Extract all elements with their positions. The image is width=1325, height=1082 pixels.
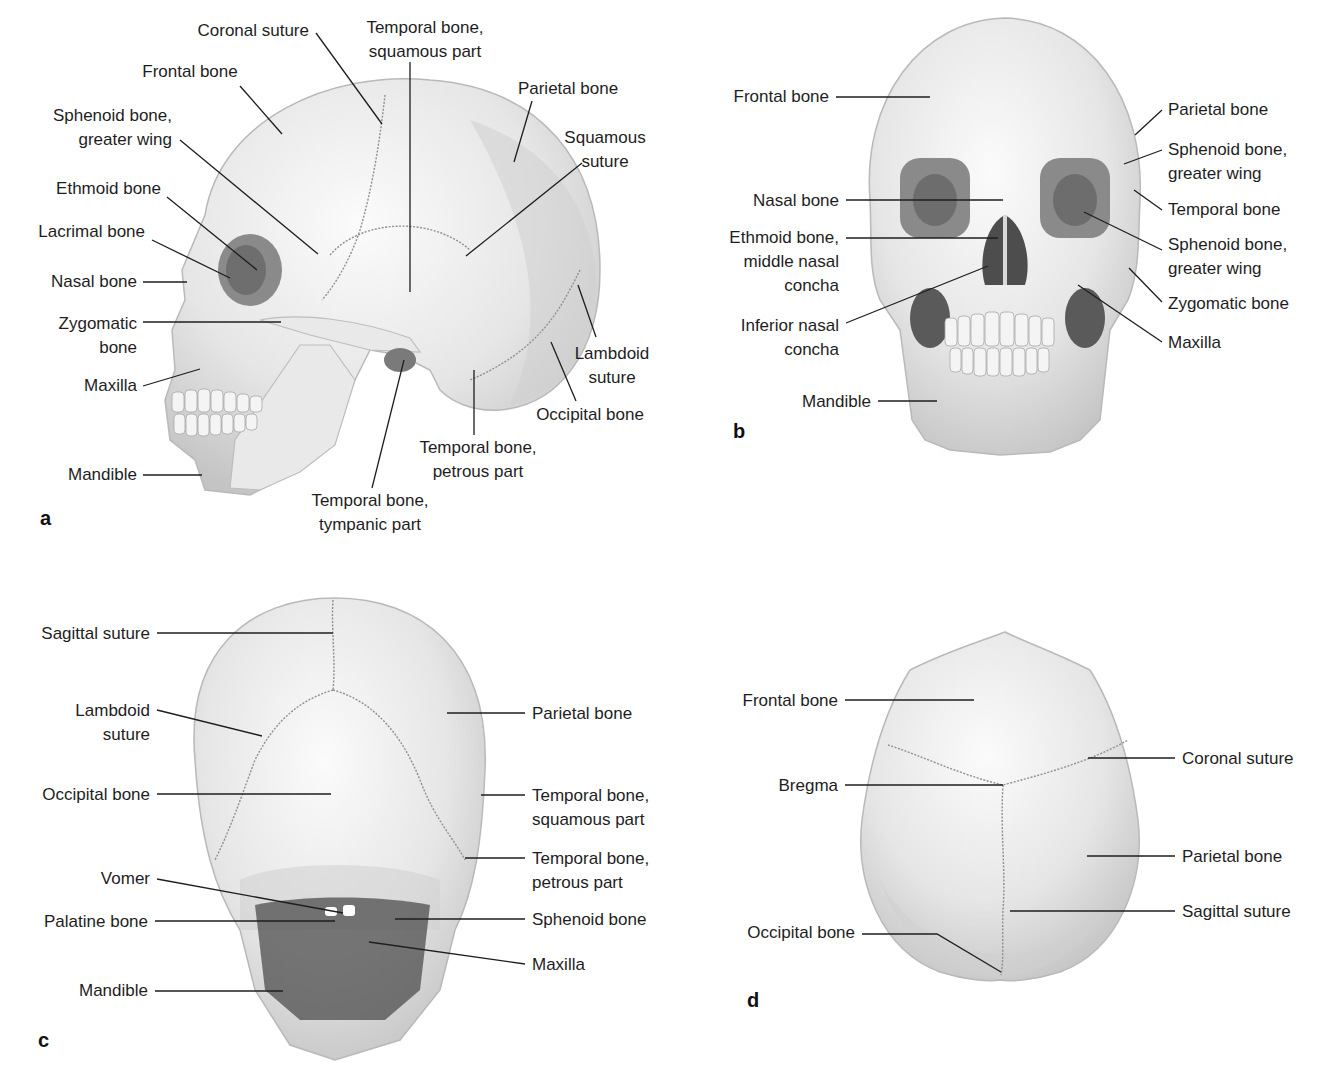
label-line: greater wing: [1168, 259, 1262, 278]
label-line: Parietal bone: [532, 704, 632, 723]
label-line: greater wing: [78, 130, 172, 149]
skull-figure: aCoronal sutureTemporal bone,squamous pa…: [0, 0, 1325, 1082]
label-line: Sphenoid bone: [532, 910, 646, 929]
label-frontal-bone: Frontal bone: [142, 62, 237, 81]
label-line: suture: [588, 368, 635, 387]
label-line: suture: [103, 725, 150, 744]
label-line: tympanic part: [319, 515, 421, 534]
label-occipital-bone: Occipital bone: [42, 785, 150, 804]
label-coronal-suture: Coronal suture: [197, 21, 309, 40]
panel-letter-b: b: [733, 420, 745, 442]
label-line: Bregma: [778, 776, 838, 795]
label-nasal-bone: Nasal bone: [51, 272, 137, 291]
panel-letter-c: c: [38, 1029, 49, 1051]
label-frontal-bone: Frontal bone: [734, 87, 829, 106]
label-coronal-suture: Coronal suture: [1182, 749, 1294, 768]
label-sagittal-suture: Sagittal suture: [1182, 902, 1291, 921]
label-line: Zygomatic: [59, 314, 138, 333]
label-line: greater wing: [1168, 164, 1262, 183]
label-line: Sagittal suture: [1182, 902, 1291, 921]
label-parietal-bone: Parietal bone: [1168, 100, 1268, 119]
label-mandible: Mandible: [802, 392, 871, 411]
label-line: Frontal bone: [734, 87, 829, 106]
label-maxilla: Maxilla: [532, 955, 585, 974]
label-temporal-bone-squamous-part: Temporal bone,squamous part: [532, 786, 649, 829]
label-lambdoid-suture: Lambdoidsuture: [575, 344, 650, 387]
label-nasal-bone: Nasal bone: [753, 191, 839, 210]
label-sphenoid-bone-greater-wing: Sphenoid bone,greater wing: [1168, 235, 1287, 278]
label-parietal-bone: Parietal bone: [532, 704, 632, 723]
label-line: Lacrimal bone: [38, 222, 145, 241]
label-line: Nasal bone: [51, 272, 137, 291]
label-line: Zygomatic bone: [1168, 294, 1289, 313]
leader-line-temporal-bone-tympanic-part: [372, 360, 404, 488]
label-maxilla: Maxilla: [1168, 333, 1221, 352]
label-line: Maxilla: [1168, 333, 1221, 352]
label-ethmoid-bone: Ethmoid bone: [56, 179, 161, 198]
label-line: Lambdoid: [575, 344, 650, 363]
label-occipital-bone: Occipital bone: [536, 405, 644, 424]
label-frontal-bone: Frontal bone: [743, 691, 838, 710]
label-palatine-bone: Palatine bone: [44, 912, 148, 931]
label-bregma: Bregma: [778, 776, 838, 795]
label-line: Temporal bone,: [366, 18, 483, 37]
label-line: Mandible: [79, 981, 148, 1000]
label-temporal-bone-squamous-part: Temporal bone,squamous part: [366, 18, 483, 61]
label-line: Lambdoid: [75, 701, 150, 720]
label-line: Parietal bone: [1168, 100, 1268, 119]
label-line: Mandible: [802, 392, 871, 411]
label-occipital-bone: Occipital bone: [747, 923, 855, 942]
label-line: Maxilla: [84, 376, 137, 395]
label-line: Vomer: [101, 869, 150, 888]
label-line: squamous part: [369, 42, 482, 61]
label-line: Sphenoid bone,: [1168, 140, 1287, 159]
skull-illustration-lateral: [165, 79, 600, 495]
label-line: middle nasal: [744, 252, 839, 271]
label-line: petrous part: [433, 462, 524, 481]
leader-line-zygomatic-bone: [1129, 268, 1162, 302]
label-line: Palatine bone: [44, 912, 148, 931]
label-line: squamous part: [532, 810, 645, 829]
label-line: Occipital bone: [747, 923, 855, 942]
label-line: Temporal bone,: [532, 849, 649, 868]
label-line: Temporal bone,: [419, 438, 536, 457]
label-mandible: Mandible: [79, 981, 148, 1000]
label-line: petrous part: [532, 873, 623, 892]
label-line: Sagittal suture: [41, 624, 150, 643]
label-line: bone: [99, 338, 137, 357]
label-temporal-bone: Temporal bone: [1168, 200, 1280, 219]
label-line: Temporal bone,: [311, 491, 428, 510]
label-line: Temporal bone: [1168, 200, 1280, 219]
label-line: Coronal suture: [197, 21, 309, 40]
label-lambdoid-suture: Lambdoidsuture: [75, 701, 150, 744]
label-line: Nasal bone: [753, 191, 839, 210]
label-sagittal-suture: Sagittal suture: [41, 624, 150, 643]
label-temporal-bone-petrous-part: Temporal bone,petrous part: [419, 438, 536, 481]
label-ethmoid-bone-middle-nasal-concha: Ethmoid bone,middle nasalconcha: [729, 228, 839, 295]
label-line: Ethmoid bone: [56, 179, 161, 198]
label-line: Occipital bone: [536, 405, 644, 424]
label-line: Maxilla: [532, 955, 585, 974]
label-line: Parietal bone: [1182, 847, 1282, 866]
label-line: Sphenoid bone,: [53, 106, 172, 125]
label-zygomatic-bone: Zygomatic bone: [1168, 294, 1289, 313]
label-sphenoid-bone-greater-wing: Sphenoid bone,greater wing: [1168, 140, 1287, 183]
label-line: suture: [581, 152, 628, 171]
label-line: Ethmoid bone,: [729, 228, 839, 247]
skull-illustration-superior: [861, 632, 1139, 981]
label-parietal-bone: Parietal bone: [518, 79, 618, 98]
label-line: Frontal bone: [142, 62, 237, 81]
label-line: Parietal bone: [518, 79, 618, 98]
label-line: Mandible: [68, 465, 137, 484]
label-line: concha: [784, 340, 839, 359]
label-zygomatic-bone: Zygomaticbone: [59, 314, 138, 357]
panel-letter-d: d: [747, 989, 759, 1011]
label-vomer: Vomer: [101, 869, 150, 888]
label-maxilla: Maxilla: [84, 376, 137, 395]
label-line: Temporal bone,: [532, 786, 649, 805]
label-line: Occipital bone: [42, 785, 150, 804]
label-temporal-bone-petrous-part: Temporal bone,petrous part: [532, 849, 649, 892]
panel-letter-a: a: [40, 507, 52, 529]
label-inferior-nasal-concha: Inferior nasalconcha: [741, 316, 840, 359]
label-line: Frontal bone: [743, 691, 838, 710]
